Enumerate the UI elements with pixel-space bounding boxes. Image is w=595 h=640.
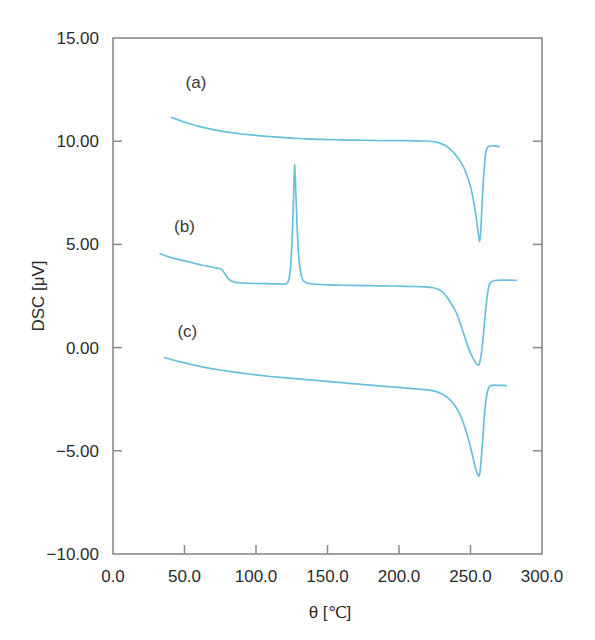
x-tick-label: 200.0: [378, 567, 421, 586]
y-tick-label: 10.00: [56, 132, 99, 151]
x-tick-label: 50.0: [168, 567, 201, 586]
x-tick-label: 300.0: [521, 567, 564, 586]
y-tick-label: 0.00: [66, 339, 99, 358]
curve-annotation-a: (a): [186, 73, 207, 92]
y-tick-label: −10.00: [47, 545, 99, 564]
x-axis-title: θ [℃]: [309, 603, 352, 622]
x-tick-label: 250.0: [449, 567, 492, 586]
chart-background: [0, 0, 595, 640]
curve-annotation-c: (c): [177, 322, 197, 341]
x-tick-label: 150.0: [306, 567, 349, 586]
y-tick-label: 15.00: [56, 29, 99, 48]
dsc-chart-figure: 15.0010.005.000.00−5.00−10.00 0.050.0100…: [0, 0, 595, 640]
curve-annotation-b: (b): [174, 217, 195, 236]
y-axis-title: DSC [μV]: [29, 260, 48, 331]
x-tick-label: 100.0: [235, 567, 278, 586]
y-tick-label: −5.00: [56, 442, 99, 461]
y-tick-label: 5.00: [66, 235, 99, 254]
chart-canvas: 15.0010.005.000.00−5.00−10.00 0.050.0100…: [0, 0, 595, 640]
x-tick-label: 0.0: [101, 567, 125, 586]
